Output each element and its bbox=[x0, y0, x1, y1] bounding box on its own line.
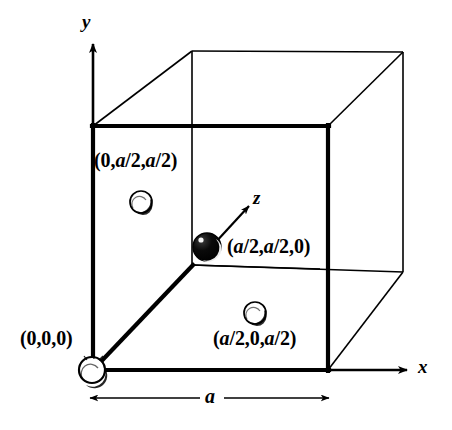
bottom-face-atom bbox=[244, 302, 267, 326]
cube-edge-receding-bottom-right bbox=[328, 272, 403, 370]
left-face-atom bbox=[130, 191, 153, 215]
cube-edge-receding-bottom-left bbox=[93, 265, 193, 370]
z-axis-label: z bbox=[253, 188, 260, 207]
body-atom-coordinate-label: (a/2,a/2,0) bbox=[227, 236, 310, 256]
origin-coordinate-label: (0,0,0) bbox=[20, 328, 73, 348]
unit-cell-diagram bbox=[0, 0, 452, 430]
left-face-coordinate-label: (0,a/2,a/2) bbox=[94, 150, 177, 170]
cube-edge-receding-top-right bbox=[328, 52, 403, 126]
unit-cell-figure: y x z (0,0,0) (0,a/2,a/2) (a/2,a/2,0) (a… bbox=[0, 0, 452, 430]
cube-edge-back-top bbox=[192, 51, 403, 52]
y-axis-label: y bbox=[82, 12, 90, 31]
edge-length-label: a bbox=[205, 386, 215, 406]
body-atom bbox=[193, 233, 222, 262]
bottom-face-coordinate-label: (a/2,0,a/2) bbox=[213, 328, 296, 348]
cube-edge-receding-top-left bbox=[93, 51, 192, 126]
x-axis-label: x bbox=[418, 357, 427, 376]
cube-edge-back-bottom-left-stub bbox=[192, 265, 320, 269]
cube-interior-lines bbox=[192, 265, 320, 269]
